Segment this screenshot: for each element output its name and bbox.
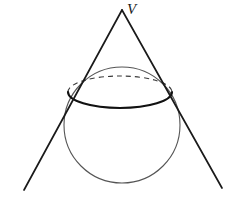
vertex-label-v: V — [127, 2, 136, 17]
figure-canvas: V — [0, 0, 247, 201]
cone-tangent-line-left — [24, 10, 122, 190]
cone-tangent-line-right — [122, 10, 222, 188]
geometry-diagram — [0, 0, 247, 201]
contact-circle-front-arc — [68, 92, 172, 108]
